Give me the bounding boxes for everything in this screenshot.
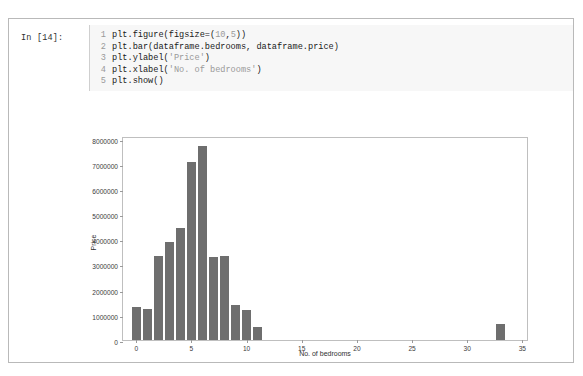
code-line: 4plt.xlabel('No. of bedrooms') (90, 65, 573, 77)
bar (187, 162, 196, 340)
x-tick-label: 0 (134, 345, 138, 352)
x-tick-label: 35 (519, 345, 526, 352)
x-tick-mark (467, 340, 468, 343)
x-tick-mark (136, 340, 137, 343)
code-line-text: plt.show() (112, 76, 164, 88)
y-tick-mark (120, 141, 123, 142)
bar (132, 307, 141, 340)
x-tick-label: 5 (190, 345, 194, 352)
y-tick-mark (120, 191, 123, 192)
line-number: 3 (90, 53, 112, 65)
y-tick-mark (120, 342, 123, 343)
line-number: 2 (90, 42, 112, 54)
code-line-text: plt.ylabel('Price') (112, 53, 210, 65)
y-tick-label: 7000000 (92, 162, 118, 169)
x-tick-mark (412, 340, 413, 343)
matplotlib-figure: Price No. of bedrooms 010000002000000300… (89, 99, 573, 357)
x-tick-mark (522, 340, 523, 343)
y-tick-label: 1000000 (92, 313, 118, 320)
bar (198, 146, 207, 340)
bar-series (123, 138, 527, 340)
screenshot-root: In [14]: 1plt.figure(figsize=(10,5))2plt… (0, 0, 583, 376)
x-tick-label: 30 (464, 345, 471, 352)
code-line: 5plt.show() (90, 76, 573, 88)
code-line-list: 1plt.figure(figsize=(10,5))2plt.bar(data… (90, 30, 573, 88)
y-tick-label: 2000000 (92, 288, 118, 295)
bar (496, 324, 505, 340)
bar (143, 309, 152, 340)
code-line: 2plt.bar(dataframe.bedrooms, dataframe.p… (90, 42, 573, 54)
y-tick-mark (120, 241, 123, 242)
line-number: 4 (90, 65, 112, 77)
y-tick-label: 0 (114, 339, 118, 346)
x-tick-label: 25 (408, 345, 415, 352)
y-tick-mark (120, 166, 123, 167)
bar (253, 327, 262, 340)
code-editor[interactable]: 1plt.figure(figsize=(10,5))2plt.bar(data… (89, 25, 573, 91)
x-tick-label: 15 (298, 345, 305, 352)
x-tick-label: 20 (353, 345, 360, 352)
bar (209, 257, 218, 340)
bar (176, 228, 185, 340)
y-tick-label: 4000000 (92, 238, 118, 245)
line-number: 5 (90, 76, 112, 88)
plot-output: Price No. of bedrooms 010000002000000300… (89, 99, 573, 357)
bar (242, 310, 251, 340)
chart-axes: 0100000020000003000000400000050000006000… (122, 137, 528, 341)
x-tick-mark (191, 340, 192, 343)
line-number: 1 (90, 30, 112, 42)
code-line-text: plt.figure(figsize=(10,5)) (112, 30, 246, 42)
y-tick-mark (120, 266, 123, 267)
y-tick-mark (120, 216, 123, 217)
y-tick-label: 6000000 (92, 187, 118, 194)
notebook-cell[interactable]: In [14]: 1plt.figure(figsize=(10,5))2plt… (8, 18, 574, 363)
x-tick-mark (302, 340, 303, 343)
code-line-text: plt.bar(dataframe.bedrooms, dataframe.pr… (112, 42, 339, 54)
bar (165, 242, 174, 340)
code-line: 1plt.figure(figsize=(10,5)) (90, 30, 573, 42)
code-line: 3plt.ylabel('Price') (90, 53, 573, 65)
bar (220, 256, 229, 340)
y-tick-label: 3000000 (92, 263, 118, 270)
x-tick-mark (357, 340, 358, 343)
x-axis-label: No. of bedrooms (299, 350, 351, 357)
x-tick-label: 10 (243, 345, 250, 352)
code-line-text: plt.xlabel('No. of bedrooms') (112, 65, 262, 77)
input-prompt-label: In [14]: (21, 33, 83, 43)
x-tick-mark (247, 340, 248, 343)
bar (154, 256, 163, 340)
y-tick-mark (120, 292, 123, 293)
y-tick-label: 5000000 (92, 213, 118, 220)
bar (231, 305, 240, 340)
y-tick-label: 8000000 (92, 137, 118, 144)
y-tick-mark (120, 317, 123, 318)
